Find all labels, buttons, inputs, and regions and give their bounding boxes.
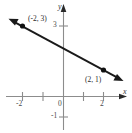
x-tick-label-neg2: -2 [16,100,22,108]
origin-label: 0 [58,100,62,108]
x-axis-label: x [123,88,127,96]
y-axis-label: y [58,3,62,11]
point-marker-a [20,23,25,28]
y-tick-label-3: 3 [53,21,57,29]
point-label-a: (-2, 3) [28,15,47,23]
x-tick-label-2: 2 [100,100,104,108]
coordinate-plane [0,0,132,133]
line-arrowhead-right [113,74,123,81]
graph-figure: y x 3 -1 -2 0 2 (-2, 3) (2, 1) [0,0,132,133]
line-arrowhead-left [9,19,19,26]
point-label-b: (2, 1) [85,76,101,84]
point-marker-b [101,67,106,72]
y-tick-label-neg1: -1 [51,112,57,120]
